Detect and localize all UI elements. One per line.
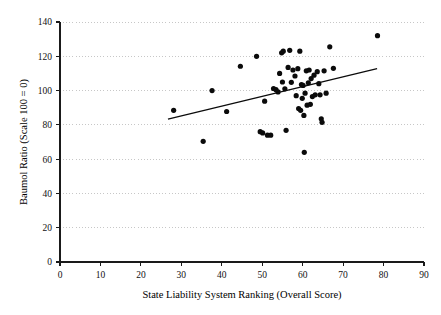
y-tick-label: 140 <box>38 17 53 27</box>
x-tick-label: 0 <box>58 270 63 280</box>
x-axis-title: State Liability System Ranking (Overall … <box>142 289 342 301</box>
x-tick-label: 20 <box>136 270 146 280</box>
scatter-plot-figure: 020406080100120140 0102030405060708090 S… <box>0 0 441 315</box>
data-point <box>301 113 306 118</box>
data-point <box>281 49 286 54</box>
x-tick-label: 50 <box>257 270 267 280</box>
data-point <box>286 65 291 70</box>
axes <box>60 22 424 262</box>
x-tick-label: 70 <box>338 270 348 280</box>
x-tick-label: 30 <box>177 270 187 280</box>
data-point <box>315 69 320 74</box>
data-point <box>289 80 294 85</box>
x-tick-label: 90 <box>419 270 429 280</box>
trend-line <box>168 69 377 120</box>
data-point <box>324 91 329 96</box>
x-tick-label: 40 <box>217 270 227 280</box>
data-point <box>307 67 312 72</box>
y-tick-label: 100 <box>38 86 53 96</box>
y-tick-label: 120 <box>38 52 53 62</box>
data-point <box>331 66 336 71</box>
x-tick-labels: 0102030405060708090 <box>58 270 429 280</box>
chart-canvas: 020406080100120140 0102030405060708090 S… <box>0 0 441 315</box>
data-point <box>298 108 303 113</box>
data-point <box>302 91 307 96</box>
data-point <box>375 33 380 38</box>
data-point <box>300 96 305 101</box>
data-points <box>171 33 380 155</box>
data-point <box>238 64 243 69</box>
data-point <box>319 120 324 125</box>
data-point <box>313 92 318 97</box>
x-tick-label: 80 <box>379 270 389 280</box>
data-point <box>280 79 285 84</box>
data-point <box>262 99 267 104</box>
y-axis-title: Baumol Ratio (Scale 100 = 0) <box>18 79 30 205</box>
data-point <box>295 66 300 71</box>
data-point <box>322 68 327 73</box>
y-tick-labels: 020406080100120140 <box>38 17 53 267</box>
data-point <box>327 44 332 49</box>
data-point <box>201 139 206 144</box>
data-point <box>290 67 295 72</box>
data-point <box>317 92 322 97</box>
data-point <box>171 108 176 113</box>
data-point <box>277 71 282 76</box>
x-tick-marks <box>60 262 424 266</box>
y-tick-marks <box>56 22 60 262</box>
data-point <box>283 128 288 133</box>
x-tick-label: 10 <box>96 270 106 280</box>
data-point <box>297 49 302 54</box>
data-point <box>260 130 265 135</box>
data-point <box>287 48 292 53</box>
data-point <box>254 54 259 59</box>
x-tick-label: 60 <box>298 270 308 280</box>
data-point <box>209 88 214 93</box>
y-tick-label: 80 <box>43 120 53 130</box>
y-tick-label: 0 <box>47 257 52 267</box>
data-point <box>268 133 273 138</box>
data-point <box>292 73 297 78</box>
data-point <box>308 102 313 107</box>
y-tick-label: 20 <box>43 223 53 233</box>
data-point <box>294 93 299 98</box>
y-tick-label: 40 <box>43 189 53 199</box>
grid-lines <box>60 22 424 228</box>
data-point <box>224 109 229 114</box>
data-point <box>302 150 307 155</box>
y-tick-label: 60 <box>43 155 53 165</box>
